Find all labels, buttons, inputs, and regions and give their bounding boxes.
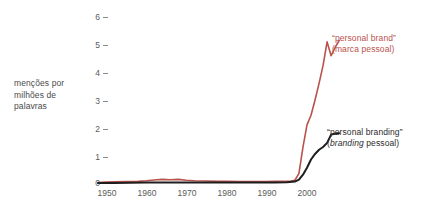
chart-container: menções por milhões de palavras 6 5 4 3 … <box>0 0 437 214</box>
series-line-personal-branding <box>98 133 339 183</box>
legend-branding-italic: branding <box>330 138 364 148</box>
legend-personal-branding-subtitle: (branding pessoal) <box>327 138 403 149</box>
legend-personal-brand-subtitle: (marca pessoal) <box>332 44 396 55</box>
legend-personal-branding-title: “personal branding” <box>327 127 403 137</box>
legend-personal-brand-title: “personal brand” <box>332 33 396 43</box>
legend-personal-brand: “personal brand” (marca pessoal) <box>332 33 396 55</box>
legend-pessoal-rest: pessoal) <box>364 138 399 148</box>
legend-personal-branding: “personal branding” (branding pessoal) <box>327 127 403 149</box>
series-line-personal-brand <box>98 41 339 183</box>
